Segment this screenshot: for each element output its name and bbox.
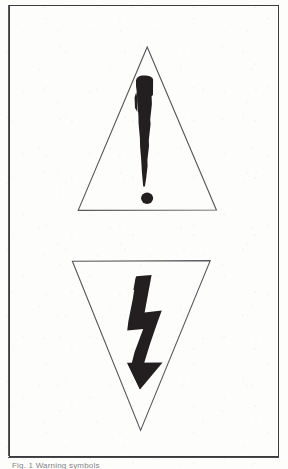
scanned-page: Fig. 1 Warning symbols	[0, 0, 288, 469]
figure-frame-border	[9, 5, 279, 457]
figure-caption: Fig. 1 Warning symbols	[12, 461, 262, 469]
